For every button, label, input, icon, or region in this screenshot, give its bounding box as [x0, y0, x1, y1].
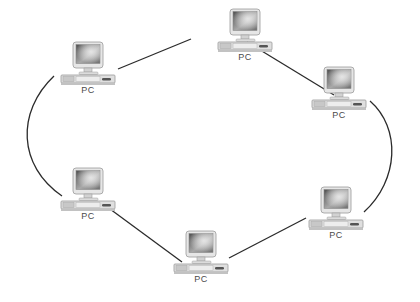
- node-label: PC: [305, 230, 367, 241]
- node-label: PC: [214, 52, 276, 63]
- ring-topology-diagram: PC PC PC: [0, 0, 420, 302]
- node-pc-bottom[interactable]: PC: [170, 230, 232, 288]
- node-label: PC: [57, 85, 119, 96]
- pc-computer-icon: [214, 8, 276, 54]
- pc-computer-icon: [170, 230, 232, 276]
- pc-computer-icon: [57, 167, 119, 213]
- node-pc-lower-right[interactable]: PC: [305, 186, 367, 244]
- node-pc-top[interactable]: PC: [214, 8, 276, 66]
- pc-computer-icon: [305, 186, 367, 232]
- link-upper-left-to-top: [118, 39, 191, 69]
- link-lower-right-to-bottom: [229, 218, 306, 258]
- node-label: PC: [308, 110, 370, 121]
- pc-computer-icon: [57, 41, 119, 87]
- node-label: PC: [170, 274, 232, 285]
- node-pc-lower-left[interactable]: PC: [57, 167, 119, 225]
- pc-computer-icon: [308, 66, 370, 112]
- node-label: PC: [57, 211, 119, 222]
- node-pc-upper-left[interactable]: PC: [57, 41, 119, 99]
- node-pc-upper-right[interactable]: PC: [308, 66, 370, 124]
